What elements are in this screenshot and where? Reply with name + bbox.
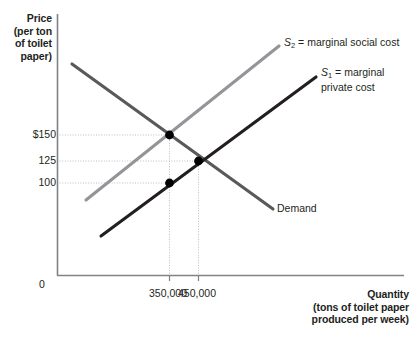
curve-label-s2: S2 = marginal social cost bbox=[284, 36, 399, 51]
curve-label-s1: S1 = marginal private cost bbox=[321, 66, 384, 93]
marker-market-equilibrium bbox=[194, 157, 203, 166]
curve-label-s2-text: = marginal social cost bbox=[295, 36, 399, 48]
curve-label-s1-subscript: 1 bbox=[328, 71, 332, 80]
marker-private-cost-at-optimum bbox=[165, 179, 174, 188]
curve-label-demand: Demand bbox=[277, 202, 317, 215]
curve-label-s2-subscript: 2 bbox=[291, 41, 295, 50]
gridlines bbox=[57, 135, 199, 275]
curve-label-s1-text-line2: private cost bbox=[321, 81, 384, 94]
curve-label-s2-symbol: S bbox=[284, 36, 291, 48]
curve-label-s1-text: = marginal bbox=[332, 66, 384, 78]
plot-area bbox=[0, 0, 411, 342]
axis-lines bbox=[57, 14, 404, 276]
curve-label-s1-symbol: S bbox=[321, 66, 328, 78]
supply-demand-chart: Price (per ton of toilet paper) Quantity… bbox=[0, 0, 411, 342]
marker-social-optimum bbox=[165, 131, 174, 140]
